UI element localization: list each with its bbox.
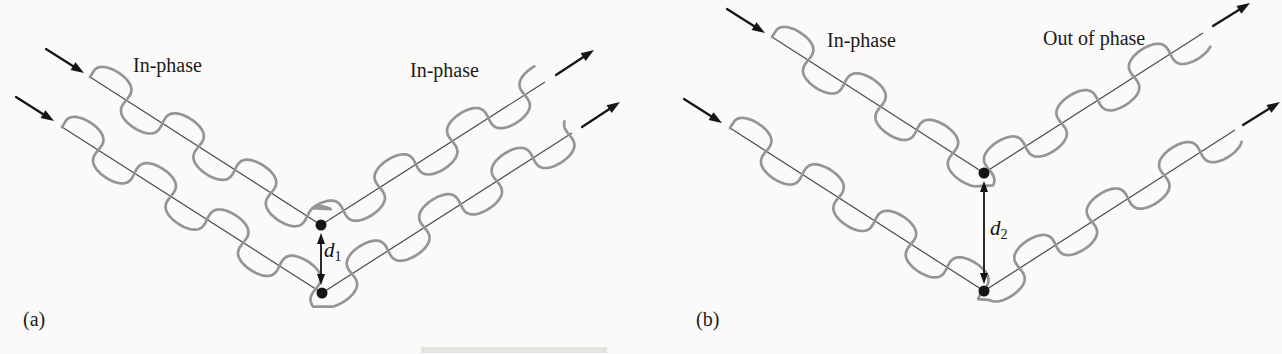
panel-b-lower-ray-scattered-arrow-head <box>1267 102 1281 113</box>
panel-b-label: (b) <box>696 308 719 331</box>
d1-symbol: d <box>324 238 335 262</box>
panel-a-upper-ray-scattered-arrow-head <box>581 50 594 61</box>
panel-a-upper-atom-dot <box>316 220 327 231</box>
panel-a-lower-ray-incident-arrow-shaft <box>16 97 46 116</box>
panel-b-lower-ray-line <box>730 128 1235 291</box>
panel-a-upper-ray-scattered-arrow-shaft <box>556 55 586 75</box>
d1-subscript: 1 <box>335 249 342 264</box>
panel-a-upper-ray-incident-arrow-head <box>71 62 84 73</box>
panel-b-upper-ray-incident-arrow-shaft <box>727 9 757 28</box>
interference-figure: In-phase In-phase In-phase Out of phase … <box>0 0 1282 354</box>
panel-b-left-phase-label: In-phase <box>827 29 896 51</box>
d2-symbol: d <box>990 216 1001 240</box>
panel-a-spacing-label: d1 <box>324 238 342 263</box>
panel-b-upper-ray-scattered-arrow-shaft <box>1213 8 1242 26</box>
panel-b-spacing-arrow-down-head <box>980 273 988 284</box>
panel-b-lower-atom-dot <box>979 286 990 297</box>
scan-artifact-band <box>421 347 607 353</box>
panel-a-lower-ray-scattered-arrow-shaft <box>582 107 612 127</box>
panel-a-upper-ray-wave <box>90 66 534 226</box>
panel-b-upper-ray-incident-arrow-head <box>752 22 765 33</box>
panel-a-right-phase-label: In-phase <box>410 59 479 81</box>
panel-a-lower-atom-dot <box>317 288 328 299</box>
panel-b-lower-ray-scattered-arrow-shaft <box>1243 107 1272 125</box>
panel-a-lower-ray-wave <box>62 117 574 307</box>
panel-a-lower-ray-incident-arrow-head <box>41 110 54 121</box>
panel-a-upper-ray-line <box>90 77 545 225</box>
panel-b-upper-atom-dot <box>979 168 990 179</box>
panel-b-spacing-label: d2 <box>990 216 1008 241</box>
panel-b-upper-ray-scattered-arrow-head <box>1237 3 1251 14</box>
panel-a-label: (a) <box>23 308 45 331</box>
panel-a-upper-ray-incident-arrow-shaft <box>46 49 76 68</box>
d2-subscript: 2 <box>1001 227 1008 242</box>
panel-a-lower-ray-scattered-arrow-head <box>607 102 620 113</box>
panel-b-lower-ray-incident-arrow-shaft <box>684 99 714 118</box>
panel-b-right-phase-label: Out of phase <box>1043 27 1145 49</box>
panel-b-lower-ray-incident-arrow-head <box>709 112 722 123</box>
panel-a-left-phase-label: In-phase <box>133 54 202 76</box>
